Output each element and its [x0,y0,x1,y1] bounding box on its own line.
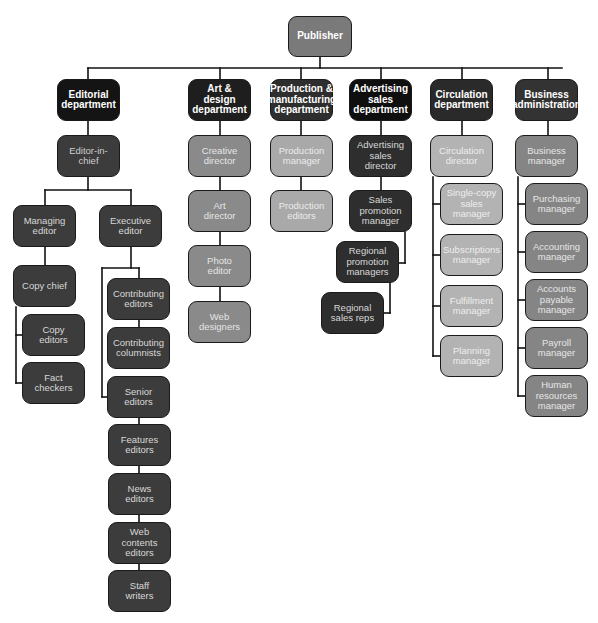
org-node-label: Business manager [527,146,566,167]
org-node-label: Publisher [297,31,343,42]
org-node-senior: Senior editors [107,376,170,418]
org-node-label: Human resources manager [536,380,578,412]
org-node-circdir: Circulation director [430,135,493,177]
org-node-advertising: Advertising sales department [349,79,412,121]
org-node-contrib_columnists: Contributing columnists [107,327,170,369]
org-node-executive: Executive editor [99,205,162,247]
org-node-bizmgr: Business manager [515,135,578,177]
org-node-label: Production manager [279,146,324,167]
org-node-label: News editors [125,484,154,505]
org-node-regreps: Regional sales reps [321,292,384,334]
org-node-prodmgr: Production manager [270,135,333,177]
org-node-label: Art director [204,201,236,222]
org-node-copychief: Copy chief [13,265,76,307]
org-node-hr: Human resources manager [525,375,588,417]
org-node-label: Web contents editors [112,527,167,559]
org-node-label: Contributing columnists [113,338,164,359]
org-node-label: Copy chief [22,281,67,292]
org-node-contrib_editors: Contributing editors [107,278,170,320]
org-node-editorial: Editorial department [57,79,120,121]
org-node-label: Fulfillment manager [450,296,493,317]
org-node-subscriptions: Subscriptions manager [440,234,503,276]
org-node-label: Features editors [121,435,159,456]
org-node-label: Copy editors [39,325,68,346]
org-node-label: Managing editor [24,216,66,237]
org-node-regpromo: Regional promotion managers [336,241,399,283]
org-node-label: Art & design department [192,84,247,116]
org-node-label: Circulation director [439,146,484,167]
org-node-label: Subscriptions manager [443,245,500,266]
org-node-label: Staff writers [126,581,154,602]
org-node-prodeditors: Production editors [270,190,333,232]
org-node-label: Purchasing manager [533,194,581,215]
org-node-label: Single-copy sales manager [447,188,497,220]
org-node-label: Creative director [202,146,237,167]
org-node-label: Web designers [199,312,240,333]
org-node-art: Art & design department [188,79,251,121]
org-node-fulfillment: Fulfillment manager [440,285,503,327]
org-node-planning: Planning manager [440,335,503,377]
org-node-label: Advertising sales director [357,140,404,172]
org-node-label: Executive editor [110,216,151,237]
org-node-managing: Managing editor [13,205,76,247]
org-node-accounting: Accounting manager [525,231,588,273]
org-node-label: Circulation department [434,90,488,111]
org-node-publisher: Publisher [288,16,352,57]
org-node-label: Editor-in- chief [69,146,108,167]
org-node-circulation: Circulation department [430,79,493,121]
org-node-adsdir: Advertising sales director [349,135,412,177]
org-node-factcheckers: Fact checkers [22,362,85,404]
org-node-eic: Editor-in- chief [57,135,120,177]
org-node-label: Business administration [512,90,581,111]
org-node-purchasing: Purchasing manager [525,183,588,225]
org-node-payable: Accounts payable manager [525,279,588,321]
org-node-features: Features editors [108,424,171,466]
org-node-label: Production & manufacturing department [267,84,336,116]
org-node-label: Senior editors [124,387,153,408]
org-node-singlecopy: Single-copy sales manager [440,183,503,225]
org-node-label: Advertising sales department [353,84,408,116]
org-node-payroll: Payroll manager [525,327,588,369]
org-node-label: Editorial department [61,90,115,111]
org-node-label: Regional sales reps [331,303,374,324]
org-node-staffwriters: Staff writers [108,570,171,612]
org-node-label: Regional promotion managers [346,246,388,278]
org-node-creative: Creative director [188,135,251,177]
org-node-webcontents: Web contents editors [108,522,171,564]
org-node-photo: Photo editor [188,245,251,287]
org-node-artdir: Art director [188,190,251,232]
org-node-business: Business administration [515,79,578,121]
org-node-webdesigners: Web designers [188,301,251,343]
org-node-copyeditors: Copy editors [22,314,85,356]
org-node-label: Accounts payable manager [537,284,576,316]
org-node-salespromo: Sales promotion manager [349,190,412,232]
org-node-label: Contributing editors [113,289,164,310]
org-node-label: Production editors [279,201,324,222]
org-node-label: Sales promotion manager [359,195,401,227]
org-node-label: Payroll manager [538,338,576,359]
org-node-label: Photo editor [207,256,232,277]
org-chart: PublisherEditorial departmentArt & desig… [0,0,598,623]
org-node-production: Production & manufacturing department [270,79,333,121]
org-node-news: News editors [108,473,171,515]
org-node-label: Accounting manager [533,242,580,263]
org-node-label: Planning manager [453,346,491,367]
org-node-label: Fact checkers [34,373,72,394]
